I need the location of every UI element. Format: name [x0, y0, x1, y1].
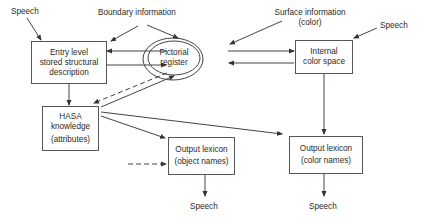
- output-lexicon-object-box: Output lexicon (object names): [168, 137, 235, 175]
- hasa-knowledge-line1: HASA: [59, 112, 81, 122]
- entry-level-box: Entry level stored structural descriptio…: [31, 41, 107, 84]
- surface-information-line2: (color): [270, 18, 350, 28]
- edge-hasa-to-pictorial: [101, 76, 174, 107]
- edge-boundary-to-entry: [111, 26, 138, 41]
- flow-diagram: Speech Boundary information Surface info…: [0, 0, 424, 223]
- output-lexicon-object-line1: Output lexicon: [175, 145, 227, 155]
- edge-hasa-to-object-lexicon: [101, 116, 165, 138]
- speech-input-label-right: Speech: [380, 21, 408, 31]
- edge-speech-to-entry: [27, 18, 41, 40]
- speech-output-object-label: Speech: [190, 202, 218, 212]
- output-lexicon-color-line2: (color names): [301, 156, 351, 166]
- hasa-knowledge-line3: (attributes): [51, 135, 90, 145]
- internal-color-space-line1: Internal: [310, 47, 337, 57]
- output-lexicon-color-line1: Output lexicon: [300, 144, 352, 154]
- speech-input-label-left: Speech: [11, 7, 39, 17]
- edge-boundary-to-pictorial: [147, 25, 178, 38]
- boundary-information-label: Boundary information: [98, 8, 176, 18]
- pictorial-register-line2: register: [148, 58, 200, 68]
- surface-information-label: Surface information (color): [270, 8, 350, 28]
- output-lexicon-object-line2: (object names): [174, 157, 228, 167]
- internal-color-space-box: Internal color space: [295, 40, 353, 74]
- hasa-knowledge-line2: knowledge: [51, 122, 90, 132]
- edge-speech-to-color-space: [354, 28, 377, 38]
- speech-output-color-label: Speech: [309, 202, 337, 212]
- entry-level-line1: Entry level: [50, 48, 88, 58]
- output-lexicon-color-box: Output lexicon (color names): [289, 136, 363, 174]
- pictorial-register-label: Pictorial register: [148, 48, 200, 68]
- entry-level-line3: description: [49, 68, 89, 78]
- surface-information-line1: Surface information: [270, 8, 350, 18]
- internal-color-space-line2: color space: [303, 57, 345, 67]
- pictorial-register-line1: Pictorial: [148, 48, 200, 58]
- entry-level-line2: stored structural: [40, 58, 99, 68]
- edge-hasa-to-color-lexicon: [101, 112, 282, 134]
- hasa-knowledge-box: HASA knowledge (attributes): [42, 106, 99, 151]
